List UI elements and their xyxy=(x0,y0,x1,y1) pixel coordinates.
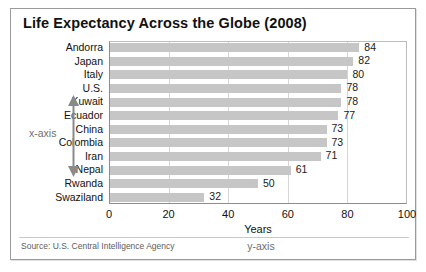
bar-value-label: 78 xyxy=(346,95,358,109)
bar xyxy=(109,43,359,52)
bar xyxy=(109,111,338,120)
bar-row: 77 xyxy=(109,109,407,123)
vertical-axis-annotation: x-axis xyxy=(39,95,109,177)
source-divider xyxy=(19,237,409,238)
bar-row: 32 xyxy=(109,191,407,205)
bar-value-label: 61 xyxy=(296,163,308,177)
category-label: Andorra xyxy=(0,41,103,55)
category-label: Swaziland xyxy=(0,191,103,205)
horizontal-axis-annotation: y-axis xyxy=(196,238,326,254)
bar-value-label: 80 xyxy=(352,68,364,82)
bar-value-label: 32 xyxy=(209,190,221,204)
bar-row: 50 xyxy=(109,177,407,191)
bar-value-label: 82 xyxy=(358,54,370,68)
bar xyxy=(109,179,258,188)
vertical-axis-caption: x-axis xyxy=(29,127,56,139)
tick-label: 60 xyxy=(282,208,294,220)
bar-value-label: 73 xyxy=(332,136,344,150)
bar xyxy=(109,138,327,147)
value-axis-ticks: 020406080100 xyxy=(109,208,407,224)
category-label: Italy xyxy=(0,68,103,82)
bar xyxy=(109,152,321,161)
bar-value-label: 71 xyxy=(326,149,338,163)
bar-row: 73 xyxy=(109,136,407,150)
chart-card: Life Expectancy Across the Globe (2008) … xyxy=(10,8,416,260)
category-label: U.S. xyxy=(0,82,103,96)
tick-label: 80 xyxy=(341,208,353,220)
source-note: Source: U.S. Central Intelligence Agency xyxy=(21,241,175,251)
bar-row: 71 xyxy=(109,150,407,164)
value-axis-title: Years xyxy=(109,223,407,235)
tick-label: 40 xyxy=(222,208,234,220)
bar xyxy=(109,70,347,79)
bar xyxy=(109,166,291,175)
bar-row: 80 xyxy=(109,68,407,82)
bar xyxy=(109,84,341,93)
category-label: Rwanda xyxy=(0,177,103,191)
bar-value-label: 73 xyxy=(332,122,344,136)
bar-value-label: 78 xyxy=(346,81,358,95)
tick-label: 100 xyxy=(398,208,416,220)
bar xyxy=(109,57,353,66)
bar-row: 78 xyxy=(109,95,407,109)
bar-row: 78 xyxy=(109,82,407,96)
bar xyxy=(109,193,204,202)
bar-row: 73 xyxy=(109,123,407,137)
bar-row: 61 xyxy=(109,163,407,177)
bar-value-label: 50 xyxy=(263,177,275,191)
horizontal-axis-caption: y-axis xyxy=(196,238,326,254)
chart-title: Life Expectancy Across the Globe (2008) xyxy=(23,15,307,31)
bar-value-label: 84 xyxy=(364,41,376,55)
bar-value-label: 77 xyxy=(343,109,355,123)
category-label: Japan xyxy=(0,55,103,69)
bar-row: 82 xyxy=(109,55,407,69)
plot-area: 848280787877737371615032 AndorraJapanIta… xyxy=(109,41,407,204)
bar xyxy=(109,125,327,134)
bar xyxy=(109,98,341,107)
vertical-double-arrow-icon xyxy=(67,95,80,177)
tick-label: 0 xyxy=(106,208,112,220)
bar-row: 84 xyxy=(109,41,407,55)
tick-label: 20 xyxy=(162,208,174,220)
